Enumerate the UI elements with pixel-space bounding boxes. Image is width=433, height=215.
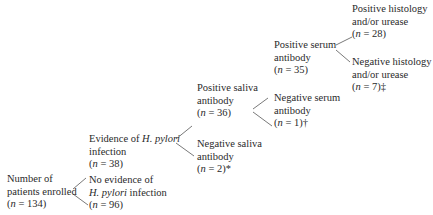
count: (n = 7)‡ bbox=[352, 81, 432, 94]
label: Negative serum bbox=[274, 92, 340, 105]
label: antibody bbox=[274, 52, 336, 65]
node-negative-histology: Negative histology and/or urease (n = 7)… bbox=[352, 56, 432, 94]
node-positive-saliva: Positive saliva antibody (n = 36) bbox=[197, 82, 258, 120]
label: Positive serum bbox=[274, 39, 336, 52]
edge-posserum-poshist bbox=[336, 37, 352, 45]
count: (n = 96) bbox=[89, 199, 167, 212]
count: (n = 2)* bbox=[197, 163, 262, 176]
count: (n = 134) bbox=[7, 198, 77, 211]
count: (n = 38) bbox=[89, 158, 180, 171]
edge-posserum-neghist bbox=[336, 50, 350, 62]
label: patients enrolled bbox=[7, 186, 77, 199]
node-negative-saliva: Negative saliva antibody (n = 2)* bbox=[197, 138, 262, 176]
node-patients-enrolled: Number of patients enrolled (n = 134) bbox=[7, 173, 77, 211]
node-positive-serum: Positive serum antibody (n = 35) bbox=[274, 39, 336, 77]
label: Positive histology bbox=[352, 3, 428, 16]
label: Positive saliva bbox=[197, 82, 258, 95]
label: Negative saliva bbox=[197, 138, 262, 151]
label: antibody bbox=[274, 105, 340, 118]
label: No evidence of bbox=[89, 174, 167, 187]
count: (n = 1)† bbox=[274, 117, 340, 130]
count: (n = 28) bbox=[352, 28, 428, 41]
label: Number of bbox=[7, 173, 77, 186]
count: (n = 35) bbox=[274, 64, 336, 77]
label: infection bbox=[89, 146, 180, 159]
label: antibody bbox=[197, 95, 258, 108]
label: Evidence of H. pylori bbox=[89, 133, 180, 146]
node-no-evidence: No evidence of H. pylori infection (n = … bbox=[89, 174, 167, 212]
node-evidence-h-pylori: Evidence of H. pylori infection (n = 38) bbox=[89, 133, 180, 171]
label: Negative histology bbox=[352, 56, 432, 69]
label: and/or urease bbox=[352, 16, 428, 29]
label: and/or urease bbox=[352, 69, 432, 82]
label: antibody bbox=[197, 151, 262, 164]
node-positive-histology: Positive histology and/or urease (n = 28… bbox=[352, 3, 428, 41]
count: (n = 36) bbox=[197, 107, 258, 120]
node-negative-serum: Negative serum antibody (n = 1)† bbox=[274, 92, 340, 130]
label: H. pylori infection bbox=[89, 187, 167, 200]
